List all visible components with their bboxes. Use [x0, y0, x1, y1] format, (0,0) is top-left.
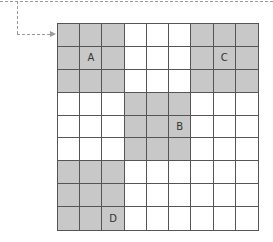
- grid-cell: [214, 184, 236, 207]
- grid-cell: [147, 70, 169, 93]
- grid-cell: [102, 116, 124, 139]
- region-label-d: D: [109, 213, 117, 224]
- grid-cell: [147, 161, 169, 184]
- region-d-cell: [58, 207, 80, 230]
- grid-cell: [80, 138, 102, 161]
- region-c-cell: [191, 47, 213, 70]
- region-c-cell: [214, 70, 236, 93]
- region-c-cell: [214, 24, 236, 47]
- grid-cell: [191, 138, 213, 161]
- region-c-cell: [191, 70, 213, 93]
- region-b-cell: [125, 138, 147, 161]
- region-d-cell: [58, 161, 80, 184]
- grid-cell: [125, 207, 147, 230]
- grid: ACBD: [57, 23, 259, 231]
- grid-cell: [58, 116, 80, 139]
- region-b-cell: [125, 116, 147, 139]
- grid-cell: [147, 184, 169, 207]
- connector-line-horizontal: [17, 34, 50, 35]
- region-d-cell: [102, 161, 124, 184]
- region-c-cell: [236, 24, 258, 47]
- grid-cell: [169, 161, 191, 184]
- grid-cell: [236, 138, 258, 161]
- grid-cell: [169, 24, 191, 47]
- grid-cell: [125, 161, 147, 184]
- region-label-b: B: [176, 121, 183, 132]
- region-a-cell: [58, 47, 80, 70]
- grid-cell: [236, 161, 258, 184]
- region-b-cell: [169, 138, 191, 161]
- grid-cell: [125, 47, 147, 70]
- region-a-cell: [102, 70, 124, 93]
- grid-cell: [169, 207, 191, 230]
- grid-cell: [214, 138, 236, 161]
- grid-cell: [236, 207, 258, 230]
- region-c-cell: [236, 70, 258, 93]
- region-b-cell: [147, 93, 169, 116]
- grid-cell: [80, 93, 102, 116]
- region-a-cell: [80, 24, 102, 47]
- region-d-cell: D: [102, 207, 124, 230]
- region-d-cell: [58, 184, 80, 207]
- grid-cell: [191, 161, 213, 184]
- grid-cell: [58, 138, 80, 161]
- grid-cell: [236, 184, 258, 207]
- region-d-cell: [102, 184, 124, 207]
- region-label-a: A: [87, 52, 94, 63]
- grid-cell: [80, 116, 102, 139]
- region-b-cell: [147, 138, 169, 161]
- region-d-cell: [80, 184, 102, 207]
- grid-cell: [236, 93, 258, 116]
- grid-cell: [58, 93, 80, 116]
- region-b-cell: B: [169, 116, 191, 139]
- region-a-cell: [102, 24, 124, 47]
- grid-cell: [191, 184, 213, 207]
- region-a-cell: A: [80, 47, 102, 70]
- region-c-cell: [191, 24, 213, 47]
- grid-cell: [147, 24, 169, 47]
- region-b-cell: [147, 116, 169, 139]
- connector-line-vertical: [17, 1, 18, 34]
- region-a-cell: [80, 70, 102, 93]
- region-c-cell: [236, 47, 258, 70]
- grid-cell: [191, 207, 213, 230]
- grid-cell: [214, 116, 236, 139]
- grid-cell: [214, 93, 236, 116]
- grid-cell: [214, 207, 236, 230]
- grid-cell: [191, 116, 213, 139]
- region-d-cell: [80, 161, 102, 184]
- grid-cell: [125, 184, 147, 207]
- grid-cell: [169, 47, 191, 70]
- region-label-c: C: [221, 52, 228, 63]
- region-b-cell: [125, 93, 147, 116]
- grid-cell: [169, 184, 191, 207]
- grid-cell: [125, 70, 147, 93]
- grid-cell: [191, 93, 213, 116]
- connector-line-top: [0, 1, 273, 2]
- grid-cell: [169, 70, 191, 93]
- grid-cell: [102, 138, 124, 161]
- grid-cell: [147, 207, 169, 230]
- region-a-cell: [58, 24, 80, 47]
- grid-cell: [147, 47, 169, 70]
- grid-cell: [236, 116, 258, 139]
- region-a-cell: [102, 47, 124, 70]
- arrowhead-icon: [50, 31, 56, 37]
- region-b-cell: [169, 93, 191, 116]
- grid-cell: [125, 24, 147, 47]
- region-a-cell: [58, 70, 80, 93]
- region-c-cell: C: [214, 47, 236, 70]
- grid-cell: [214, 161, 236, 184]
- region-d-cell: [80, 207, 102, 230]
- grid-cell: [102, 93, 124, 116]
